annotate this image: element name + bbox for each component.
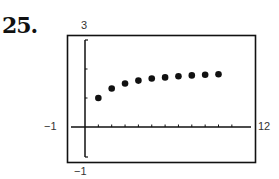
- data-point: [95, 95, 102, 102]
- data-point: [148, 75, 155, 82]
- data-point: [108, 85, 115, 92]
- data-point: [215, 71, 222, 78]
- data-points: [95, 71, 222, 101]
- data-point: [202, 72, 209, 79]
- data-point: [135, 77, 142, 84]
- data-point: [162, 74, 169, 81]
- data-point: [122, 80, 129, 87]
- data-point: [175, 73, 182, 80]
- data-point: [189, 72, 196, 79]
- scatter-plot: [0, 0, 279, 179]
